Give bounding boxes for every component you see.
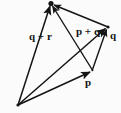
label-q-plus-r: q + r (29, 31, 52, 42)
label-p: p (85, 77, 91, 88)
label-q: q (110, 30, 116, 41)
vertex-origin (16, 103, 19, 106)
vector-line-closing-edge (54, 5, 108, 27)
vector-canvas (0, 0, 121, 113)
vector-line-r (53, 6, 94, 71)
vertex-top (48, 1, 53, 6)
vector-line-p (18, 72, 90, 105)
label-p-plus-q: p + q (76, 26, 100, 37)
vector-diagram-figure: q + r p + q q p (0, 0, 121, 113)
